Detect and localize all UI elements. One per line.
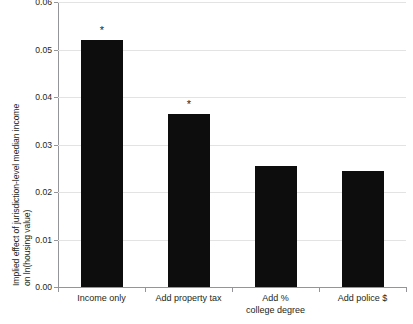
gridline xyxy=(58,2,406,3)
x-axis-separator xyxy=(145,287,146,292)
y-tick-label: 0.00 xyxy=(26,283,52,292)
x-axis-separator xyxy=(406,287,407,292)
y-tick-label: 0.01 xyxy=(26,236,52,245)
bar xyxy=(255,166,297,287)
x-axis-label-line: Add property tax xyxy=(145,293,232,305)
y-tick-label: 0.02 xyxy=(26,188,52,197)
bar xyxy=(342,171,384,287)
x-axis-label-line: college degree xyxy=(232,305,319,317)
x-axis-separator xyxy=(58,287,59,292)
x-axis-label: Income only xyxy=(58,293,145,305)
y-axis-tick xyxy=(54,2,58,3)
y-axis-title-line-1: Implied effect of jurisdiction-level med… xyxy=(11,104,23,286)
y-axis-tick xyxy=(54,192,58,193)
y-tick-label: 0.04 xyxy=(26,93,52,102)
x-axis-label: Add %college degree xyxy=(232,293,319,316)
plot-area: ** xyxy=(58,2,406,287)
y-tick-label: 0.06 xyxy=(26,0,52,7)
x-axis-label-line: Add police $ xyxy=(319,293,406,305)
y-axis-tick xyxy=(54,50,58,51)
y-tick-label: 0.05 xyxy=(26,46,52,55)
x-axis-label-line: Add % xyxy=(232,293,319,305)
y-axis-title: Implied effect of jurisdiction-level med… xyxy=(0,0,28,300)
x-axis-label: Add police $ xyxy=(319,293,406,305)
x-axis-label: Add property tax xyxy=(145,293,232,305)
y-axis-tick xyxy=(54,145,58,146)
y-axis-tick-labels: 0.00 0.01 0.02 0.03 0.04 0.05 0.06 xyxy=(26,0,52,324)
x-axis-labels: Income onlyAdd property taxAdd %college … xyxy=(58,293,406,324)
y-tick-label: 0.03 xyxy=(26,141,52,150)
significance-asterisk: * xyxy=(179,99,199,110)
y-axis-tick xyxy=(54,240,58,241)
x-axis-separator xyxy=(232,287,233,292)
x-axis-separator xyxy=(319,287,320,292)
significance-asterisk: * xyxy=(92,25,112,36)
x-axis-label-line: Income only xyxy=(58,293,145,305)
y-axis-tick xyxy=(54,97,58,98)
bar xyxy=(81,40,123,287)
bar xyxy=(168,114,210,287)
bar-chart: Implied effect of jurisdiction-level med… xyxy=(0,0,413,324)
